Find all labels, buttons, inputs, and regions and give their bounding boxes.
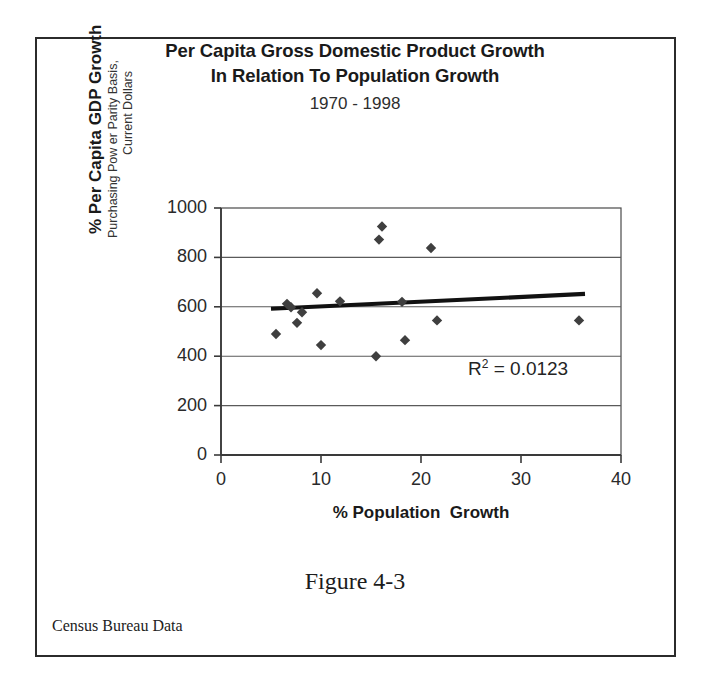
y-axis-subtitle: Purchasing Pow er Parity Basis,Current D… [106,0,126,238]
r-squared-annotation: R2 = 0.0123 [468,357,568,380]
y-tick-label: 400 [137,345,207,366]
figure-caption: Figure 4-3 [0,568,710,595]
y-tick-label: 200 [137,395,207,416]
x-tick-label: 0 [191,469,251,490]
x-axis-tick-marks [221,455,621,463]
x-tick-label: 30 [491,469,551,490]
r-squared-value: = 0.0123 [488,358,568,379]
x-tick-label: 40 [591,469,651,490]
y-axis-tick-marks [214,208,221,455]
plot-area-border [221,208,621,455]
x-tick-label: 20 [391,469,451,490]
figure-page: Per Capita Gross Domestic Product Growth… [0,0,710,695]
source-note: Census Bureau Data [52,617,183,635]
y-tick-label: 600 [137,296,207,317]
x-axis-title: % Population Growth [221,503,621,523]
y-tick-label: 0 [137,444,207,465]
y-axis-subtitle-line-1: Purchasing Pow er Parity Basis, [106,60,120,238]
y-axis-subtitle-line-2: Current Dollars [121,0,136,238]
r-squared-symbol: R [468,358,482,379]
y-tick-label: 800 [137,246,207,267]
y-tick-label: 1000 [137,197,207,218]
x-tick-label: 10 [291,469,351,490]
